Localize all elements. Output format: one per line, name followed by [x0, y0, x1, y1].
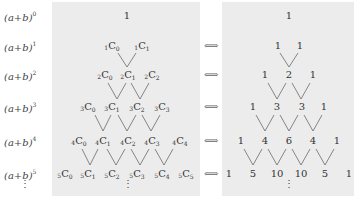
- pascal-cell: 1: [334, 168, 360, 179]
- combo-cell: 5C5: [171, 168, 201, 180]
- row-label-3: (a+b)3: [4, 101, 36, 114]
- row-label-4: (a+b)4: [4, 135, 36, 148]
- pascal-triangle-panel: [222, 2, 354, 196]
- combo-cell: 1C0: [97, 40, 127, 52]
- combo-cell: 4C4: [165, 135, 195, 147]
- label-ellipsis: ⋮: [20, 182, 30, 186]
- equivalence-arrow-icon: ⟺: [204, 40, 218, 51]
- pascal-cell: 1: [322, 135, 352, 146]
- pascal-cell: 1: [285, 40, 315, 51]
- combination-triangle-panel: [52, 2, 200, 196]
- equivalence-arrow-icon: ⟺: [204, 135, 218, 146]
- row-label-0: (a+b)0: [4, 10, 36, 23]
- combo-ellipsis: ⋮: [123, 182, 133, 186]
- combo-cell: 2C2: [137, 69, 167, 81]
- row-label-1: (a+b)1: [4, 40, 36, 53]
- pascal-cell: 1: [298, 69, 328, 80]
- combo-cell: 3C3: [147, 101, 177, 113]
- combo-cell: 1: [112, 10, 142, 21]
- combo-cell: 4C3: [137, 135, 167, 147]
- pascal-ellipsis: ⋮: [284, 182, 294, 186]
- equivalence-arrow-icon: ⟺: [204, 69, 218, 80]
- pascal-cell: 1: [274, 10, 304, 21]
- equivalence-arrow-icon: ⟺: [204, 101, 218, 112]
- combo-cell: 1C1: [127, 40, 157, 52]
- row-label-2: (a+b)2: [4, 69, 36, 82]
- pascal-cell: 1: [309, 101, 339, 112]
